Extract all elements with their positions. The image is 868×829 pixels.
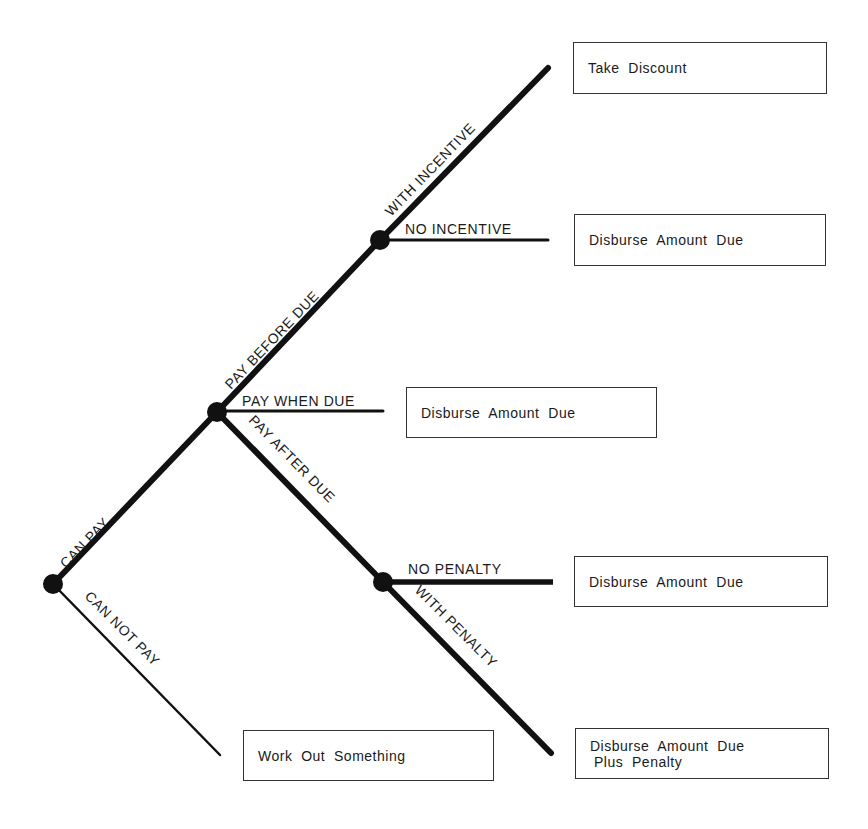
edge-pay-after-due bbox=[217, 412, 383, 582]
outcome-can-not-pay: Work Out Something bbox=[243, 730, 494, 781]
outcome-pay-when-due: Disburse Amount Due bbox=[406, 387, 657, 438]
outcome-text: Disburse Amount Due bbox=[589, 232, 825, 248]
label-with-incentive: WITH INCENTIVE bbox=[382, 120, 479, 219]
node-root bbox=[43, 574, 63, 594]
outcome-take-discount: Take Discount bbox=[573, 42, 827, 94]
edge-with-penalty bbox=[383, 582, 551, 753]
outcome-text: Take Discount bbox=[588, 60, 826, 76]
node-can-pay bbox=[207, 402, 227, 422]
label-pay-before-due: PAY BEFORE DUE bbox=[222, 287, 322, 392]
label-can-pay: CAN PAY bbox=[57, 514, 113, 571]
label-pay-when-due: PAY WHEN DUE bbox=[242, 393, 355, 409]
outcome-text-line1: Disburse Amount Due bbox=[590, 738, 828, 754]
label-no-incentive: NO INCENTIVE bbox=[405, 221, 512, 237]
node-pay-before-due bbox=[370, 230, 390, 250]
outcome-with-penalty: Disburse Amount Due Plus Penalty bbox=[575, 728, 829, 779]
outcome-text: Disburse Amount Due bbox=[421, 405, 656, 421]
outcome-no-penalty: Disburse Amount Due bbox=[574, 556, 828, 607]
edge-can-not-pay bbox=[53, 584, 220, 755]
outcome-text: Disburse Amount Due bbox=[589, 574, 827, 590]
node-pay-after-due bbox=[373, 572, 393, 592]
edge-pay-before-due bbox=[217, 240, 380, 412]
edge-with-incentive bbox=[380, 68, 548, 240]
outcome-text: Work Out Something bbox=[258, 748, 493, 764]
outcome-text-line2: Plus Penalty bbox=[590, 754, 828, 770]
outcome-no-incentive: Disburse Amount Due bbox=[574, 214, 826, 266]
label-no-penalty: NO PENALTY bbox=[408, 561, 502, 577]
